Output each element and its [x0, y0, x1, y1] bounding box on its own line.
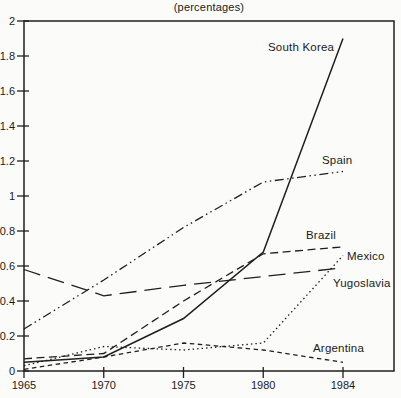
y-tick-label: 1.2 [0, 155, 15, 167]
series-label-brazil: Brazil [306, 229, 336, 241]
y-tick-label: 1.4 [0, 120, 15, 132]
chart-canvas: 00.20.40.60.811.21.41.61.821965197019751… [0, 0, 401, 398]
y-tick-label: 0 [9, 365, 15, 377]
series-line-brazil [24, 247, 343, 359]
chart-figure: (percentages) 00.20.40.60.811.21.41.61.8… [0, 0, 401, 398]
y-tick-label: 2 [9, 15, 15, 27]
x-tick-label: 1984 [331, 379, 355, 391]
plot-border [24, 21, 394, 371]
y-tick-label: 0.4 [0, 295, 15, 307]
y-tick-label: 1.6 [0, 85, 15, 97]
series-label-mexico: Mexico [347, 250, 385, 262]
y-tick-label: 0.8 [0, 225, 15, 237]
y-tick-label: 1 [9, 190, 15, 202]
series-line-argentina [24, 343, 343, 369]
series-line-south-korea [24, 39, 343, 363]
x-tick-label: 1965 [12, 379, 36, 391]
series-line-spain [24, 172, 343, 330]
series-label-yugoslavia: Yugoslavia [333, 277, 391, 289]
y-tick-label: 1.8 [0, 50, 15, 62]
series-label-south-korea: South Korea [268, 41, 334, 53]
series-label-spain: Spain [322, 154, 352, 166]
x-tick-label: 1970 [92, 379, 116, 391]
series-label-argentina: Argentina [313, 342, 364, 354]
x-tick-label: 1980 [251, 379, 275, 391]
y-tick-label: 0.6 [0, 260, 15, 272]
series-line-yugoslavia [24, 268, 343, 296]
series-line-mexico [24, 256, 343, 366]
y-tick-label: 0.2 [0, 330, 15, 342]
x-tick-label: 1975 [171, 379, 195, 391]
